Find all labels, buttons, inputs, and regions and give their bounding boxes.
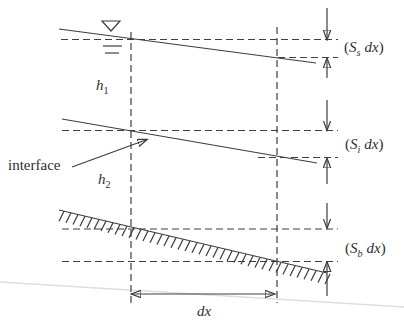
hatch-stroke xyxy=(318,273,323,283)
hatch-stroke xyxy=(227,251,232,261)
h1-label: h1 xyxy=(96,77,109,94)
hatch-stroke xyxy=(143,231,148,241)
hatch-stroke xyxy=(59,211,64,221)
bed-slope-label: (Sbdx) xyxy=(345,240,386,257)
hatch-stroke xyxy=(192,243,197,253)
hatch-stroke xyxy=(87,218,92,228)
water-surface-triangle-icon xyxy=(102,21,120,31)
hatch-stroke xyxy=(171,238,176,248)
interface-label-text: interface xyxy=(8,157,60,173)
hatch-stroke xyxy=(290,266,295,276)
h2-subscript: 2 xyxy=(106,179,111,190)
dx-label: dx xyxy=(197,303,211,320)
hatch-stroke xyxy=(136,229,141,239)
hatch-stroke xyxy=(283,264,288,274)
hatch-stroke xyxy=(262,259,267,269)
hatch-stroke xyxy=(101,221,106,231)
hatch-stroke xyxy=(304,269,309,279)
bed-hatching xyxy=(59,211,330,284)
hatch-stroke xyxy=(297,268,302,278)
interface-slope-label: (Sidx) xyxy=(345,136,384,153)
hatch-stroke xyxy=(199,244,204,254)
interface-pointer-arrow-icon xyxy=(72,140,147,168)
hatch-stroke xyxy=(311,271,316,281)
hatch-stroke xyxy=(213,248,218,258)
hatch-stroke xyxy=(206,246,211,256)
hatch-stroke xyxy=(220,249,225,259)
hatch-stroke xyxy=(66,213,71,223)
hatch-stroke xyxy=(164,236,169,246)
hatch-stroke xyxy=(241,254,246,264)
hatch-stroke xyxy=(178,239,183,249)
dx-label-text: dx xyxy=(197,303,211,319)
hatch-stroke xyxy=(80,216,85,226)
hatch-stroke xyxy=(122,226,127,236)
hatch-stroke xyxy=(185,241,190,251)
hatch-stroke xyxy=(150,233,155,243)
hatch-stroke xyxy=(73,215,78,225)
figure-two-layer-flow-sketch: interface h1 h2 dx (Ssdx) (Sidx) (Sbdx) xyxy=(0,0,404,332)
h2-label: h2 xyxy=(98,171,111,188)
hatch-stroke xyxy=(255,258,260,268)
hatch-stroke xyxy=(157,234,162,244)
bed-line xyxy=(59,210,327,273)
h2-symbol: h xyxy=(98,171,106,187)
interface-label: interface xyxy=(8,157,60,174)
h1-symbol: h xyxy=(96,77,104,93)
h1-subscript: 1 xyxy=(104,85,109,96)
surface-slope-label: (Ssdx) xyxy=(344,39,384,56)
hatch-stroke xyxy=(269,261,274,271)
water-surface-line xyxy=(59,29,316,63)
hatch-stroke xyxy=(108,223,113,233)
hatch-stroke xyxy=(94,220,99,230)
